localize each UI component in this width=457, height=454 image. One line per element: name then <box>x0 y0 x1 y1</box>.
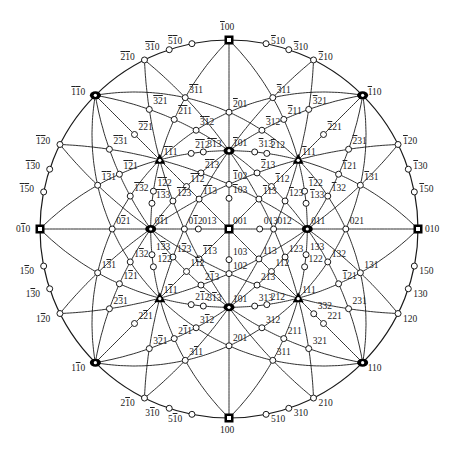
pole-label: 101 <box>233 138 247 148</box>
pole-m3m10-marker <box>166 47 172 53</box>
pole-221-marker <box>321 321 327 327</box>
pole-label: 211 <box>288 326 302 336</box>
pole-label: 231 <box>113 296 127 306</box>
pole-100-marker <box>225 414 234 423</box>
pole-3m21-marker <box>146 346 152 352</box>
pole-label: 122 <box>309 178 323 188</box>
pole-1m10-marker <box>90 359 101 367</box>
pole-m313-marker <box>252 149 258 155</box>
pole-m130-marker <box>405 166 411 172</box>
pole-m3m11-marker <box>182 95 188 101</box>
pole-label: 210 <box>319 398 333 408</box>
pole-130-marker <box>405 286 411 292</box>
pole-label: 121 <box>123 271 137 281</box>
pole-m150-marker <box>411 189 417 195</box>
pole-m1m20-marker <box>57 141 63 147</box>
pole-m231-marker <box>346 146 352 152</box>
pole-1m33-marker <box>149 252 155 258</box>
pole-3m11-marker <box>182 357 188 363</box>
pole-label: 510 <box>271 414 285 424</box>
pole-label: 113 <box>263 246 277 256</box>
pole-110-marker <box>357 359 368 367</box>
pole-label: 120 <box>36 136 50 146</box>
pole-m110-marker <box>357 91 368 99</box>
pole-label: 123 <box>289 244 303 254</box>
pole-label: 313 <box>259 139 273 149</box>
pole-label: 012 <box>188 216 202 226</box>
pole-label: 103 <box>233 247 247 257</box>
pole-1m30-marker <box>47 286 53 292</box>
pole-label: 122 <box>157 178 171 188</box>
pole-m1m13-marker <box>196 196 202 202</box>
pole-m1m30-marker <box>47 166 53 172</box>
pole-132-marker <box>325 259 331 265</box>
pole-label: 510 <box>271 36 285 46</box>
pole-label: 121 <box>343 161 357 171</box>
pole-101-marker <box>224 303 235 311</box>
pole-1m20-marker <box>57 311 63 317</box>
pole-label: 312 <box>200 117 214 127</box>
pole-0m10-marker <box>36 225 45 234</box>
pole-m1m21-marker <box>116 171 122 177</box>
pole-label: 123 <box>177 244 191 254</box>
pole-label: 131 <box>102 172 116 182</box>
pole-label: 100 <box>220 425 234 435</box>
pole-label: 133 <box>156 190 170 200</box>
pole-103-marker <box>226 257 232 263</box>
pole-label: 111 <box>164 147 178 157</box>
pole-label: 102 <box>233 261 247 271</box>
pole-2m12-marker <box>188 302 194 308</box>
pole-m2m31-marker <box>106 146 112 152</box>
pole-311-marker <box>270 357 276 363</box>
pole-label: 510 <box>168 36 182 46</box>
pole-m121-marker <box>336 281 342 287</box>
pole-label: 312 <box>266 315 280 325</box>
pole-313-marker <box>252 303 258 309</box>
pole-3m12-marker <box>193 325 199 331</box>
pole-label: 210 <box>120 52 134 62</box>
pole-label: 112 <box>275 174 289 184</box>
pole-120-marker <box>395 311 401 317</box>
pole-label: 102 <box>233 171 247 181</box>
pole-label: 013 <box>264 216 278 226</box>
pole-label: 132 <box>332 249 346 259</box>
pole-231-marker <box>346 306 352 312</box>
pole-510-marker <box>263 411 269 417</box>
pole-label: 312 <box>266 117 280 127</box>
pole-013-marker <box>195 226 201 232</box>
pole-m3m12-marker <box>193 127 199 133</box>
pole-m311-marker <box>270 95 276 101</box>
pole-m121-marker <box>336 171 342 177</box>
pole-201-marker <box>226 343 232 349</box>
pole-label: 021 <box>350 216 364 226</box>
pole-label: 201 <box>233 333 247 343</box>
pole-label: 311 <box>189 85 203 95</box>
pole-012-marker <box>271 226 277 232</box>
pole-label: 231 <box>353 296 367 306</box>
pole-m2m10-marker <box>141 57 147 63</box>
pole-3m13-marker <box>200 303 206 309</box>
pole-label: 150 <box>20 266 34 276</box>
pole-122-marker <box>302 264 308 270</box>
pole-label: 103 <box>233 185 247 195</box>
pole-m1m31-marker <box>95 182 101 188</box>
pole-label: 113 <box>263 186 277 196</box>
pole-1m32-marker <box>127 259 133 265</box>
pole-m510-marker <box>263 41 269 47</box>
pole-label: 213 <box>261 160 275 170</box>
pole-label: 321 <box>313 336 327 346</box>
pole-label: 312 <box>200 315 214 325</box>
pole-label: 123 <box>177 188 191 198</box>
pole-label: 321 <box>313 96 327 106</box>
pole-label: 131 <box>364 172 378 182</box>
pole-label: 013 <box>202 216 216 226</box>
pole-label: 130 <box>413 161 427 171</box>
pole-label: 321 <box>153 96 167 106</box>
pole-131-marker <box>357 270 363 276</box>
pole-m103-marker <box>226 195 232 201</box>
pole-5m10-marker <box>189 411 195 417</box>
pole-label: 510 <box>168 414 182 424</box>
pole-label: 133 <box>156 242 170 252</box>
pole-label: 150 <box>419 184 433 194</box>
pole-label: 122 <box>309 254 323 264</box>
